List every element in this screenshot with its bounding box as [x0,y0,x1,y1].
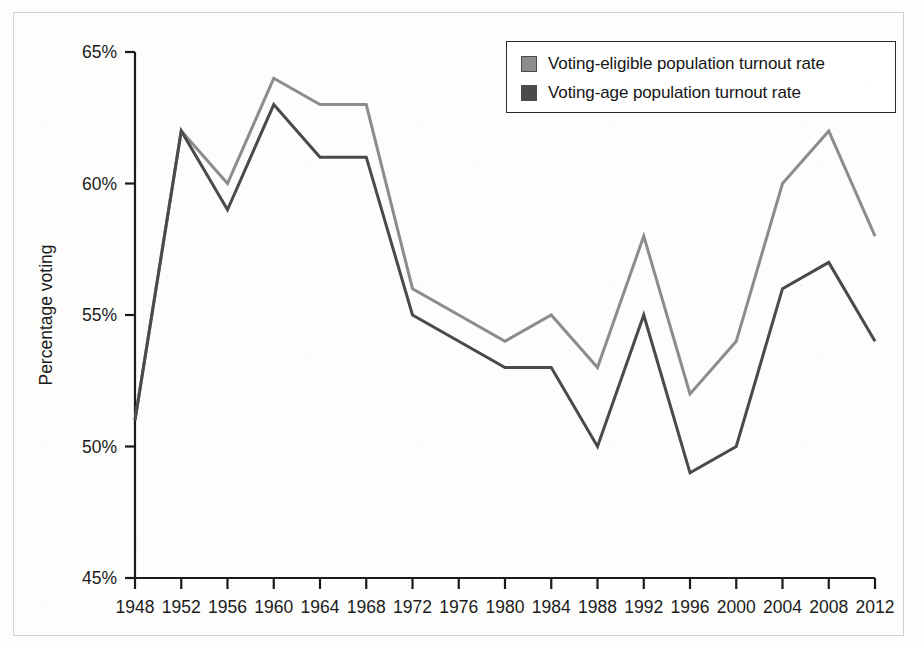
y-tick-label: 50% [82,437,117,457]
x-tick-label: 1956 [208,597,247,617]
x-axis-tick-labels: 1948195219561960196419681972197619801984… [116,597,895,617]
chart-page: 65%60%55%50%45% 194819521956196019641968… [0,0,922,648]
y-axis-title: Percentage voting [36,244,56,385]
y-tick-label: 60% [82,174,117,194]
x-tick-label: 2000 [717,597,756,617]
x-tick-label: 2008 [809,597,848,617]
chart-series-lines [135,78,875,473]
legend-swatch-icon [521,85,537,101]
y-axis-title-text: Percentage voting [36,244,56,385]
x-tick-label: 1952 [162,597,201,617]
x-tick-label: 1960 [254,597,293,617]
series-line-voting-age [135,105,875,473]
x-tick-label: 1976 [439,597,478,617]
legend-swatch-icon [521,56,537,72]
x-tick-label: 1988 [578,597,617,617]
chart-axes [125,52,875,589]
x-tick-label: 1980 [486,597,525,617]
x-tick-label: 1972 [393,597,432,617]
y-tick-label: 45% [82,568,117,588]
legend-label: Voting-age population turnout rate [548,83,801,103]
x-tick-label: 1964 [301,597,340,617]
legend-item-voting-age: Voting-age population turnout rate [521,79,895,107]
x-tick-label: 1996 [671,597,710,617]
legend-item-voting-eligible: Voting-eligible population turnout rate [521,50,895,78]
x-tick-label: 2004 [763,597,802,617]
x-tick-label: 1948 [116,597,155,617]
x-tick-label: 2012 [856,597,895,617]
y-tick-label: 55% [82,305,117,325]
chart-legend: Voting-eligible population turnout rate … [506,41,896,113]
y-axis-tick-labels: 65%60%55%50%45% [82,42,117,588]
x-tick-label: 1968 [347,597,386,617]
x-tick-label: 1992 [624,597,663,617]
x-tick-label: 1984 [532,597,571,617]
y-tick-label: 65% [82,42,117,62]
legend-label: Voting-eligible population turnout rate [548,54,825,74]
